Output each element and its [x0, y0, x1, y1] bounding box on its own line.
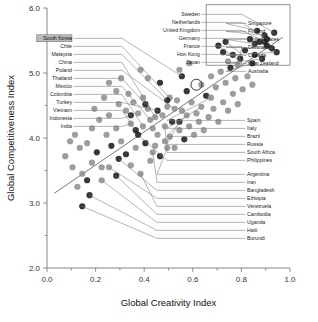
point-label: Bangladesh — [247, 187, 275, 193]
data-point — [108, 143, 114, 149]
leader-line — [74, 124, 131, 127]
data-point — [96, 117, 102, 123]
point-label: Singapore — [248, 20, 272, 26]
leader-line — [153, 152, 246, 182]
data-point — [137, 67, 143, 73]
data-point — [103, 132, 109, 138]
data-point — [208, 73, 214, 79]
data-point — [118, 138, 124, 144]
point-label: Finland — [248, 28, 265, 34]
data-point — [147, 158, 153, 164]
data-point — [74, 184, 80, 190]
data-point — [174, 97, 180, 103]
data-point — [67, 138, 73, 144]
data-point — [140, 95, 146, 101]
data-point — [91, 106, 97, 112]
point-label: Australia — [248, 68, 268, 74]
data-point — [106, 112, 112, 118]
point-label: Sweden — [181, 11, 200, 17]
point-label: Venezuela — [247, 203, 271, 209]
data-point-labeled — [86, 192, 92, 198]
x-tick-label: 0.0 — [41, 275, 53, 284]
data-point — [218, 69, 224, 75]
data-point — [77, 145, 83, 151]
point-label: Malaysia — [52, 51, 73, 57]
y-tick-label: 5.0 — [29, 69, 41, 78]
x-tick-label: 0.8 — [236, 275, 248, 284]
point-label: Vietnam — [53, 107, 72, 113]
data-point — [171, 145, 177, 151]
data-point — [94, 149, 100, 155]
data-point — [101, 95, 107, 101]
point-label: Philippines — [247, 157, 272, 163]
data-point — [128, 162, 134, 168]
leader-line — [116, 176, 245, 215]
data-point-labeled — [150, 149, 156, 155]
point-label: Argentina — [247, 171, 269, 177]
leader-line — [109, 167, 246, 198]
point-label: New Zealand — [248, 60, 279, 66]
data-point — [123, 151, 129, 157]
y-tick-label: 3.0 — [29, 199, 41, 208]
leader-line — [74, 115, 131, 118]
data-point — [84, 177, 90, 183]
data-point — [232, 75, 238, 81]
data-point — [191, 132, 197, 138]
x-tick-label: 1.0 — [284, 275, 296, 284]
y-tick-label: 6.0 — [29, 4, 41, 13]
data-point — [181, 136, 187, 142]
data-point — [72, 132, 78, 138]
point-label: Mexico — [56, 83, 73, 89]
leader-line — [74, 46, 170, 97]
data-point-labeled — [116, 156, 122, 162]
scatter-chart: South KoreaChileMalaysiaChinaPolandThail… — [0, 0, 318, 322]
data-point — [106, 80, 112, 86]
data-point — [89, 160, 95, 166]
data-point — [167, 134, 173, 140]
point-label: Canada — [248, 52, 266, 58]
leader-line — [157, 148, 246, 175]
y-axis-title: Global Competitiveness Index — [5, 75, 16, 201]
data-point — [223, 80, 229, 86]
data-point — [133, 145, 139, 151]
point-label: Denmark — [248, 44, 269, 50]
point-label: Brazil — [247, 133, 260, 139]
point-label: China — [58, 59, 72, 65]
data-point — [240, 86, 246, 92]
x-tick-label: 0.6 — [187, 275, 199, 284]
data-point — [84, 140, 90, 146]
y-tick-label: 2.0 — [29, 264, 41, 273]
x-tick-label: 0.2 — [90, 275, 102, 284]
data-point — [184, 88, 190, 94]
data-point — [235, 101, 241, 107]
data-point — [249, 82, 255, 88]
point-label: Japan — [186, 59, 200, 65]
data-point — [62, 153, 68, 159]
data-point — [201, 127, 207, 133]
data-point — [162, 138, 168, 144]
data-point — [176, 67, 182, 73]
data-point — [210, 106, 216, 112]
point-label: Hon Kong — [177, 51, 200, 57]
data-point — [154, 132, 160, 138]
point-label: Burundi — [247, 235, 265, 241]
data-point — [69, 164, 75, 170]
data-point — [116, 101, 122, 107]
point-label: United States — [248, 36, 280, 42]
data-point — [205, 114, 211, 120]
data-point — [79, 171, 85, 177]
data-point — [225, 108, 231, 114]
data-point — [196, 119, 202, 125]
point-label: Ethiopia — [247, 195, 266, 201]
chart-root: South KoreaChileMalaysiaChinaPolandThail… — [0, 0, 318, 322]
leader-line — [90, 195, 246, 230]
data-point — [220, 99, 226, 105]
point-label: Thailand — [52, 75, 72, 81]
y-tick-label: 4.0 — [29, 134, 41, 143]
data-point — [99, 164, 105, 170]
point-label: Spain — [247, 117, 260, 123]
leader-line — [102, 180, 246, 222]
point-label: Netherlands — [172, 19, 200, 25]
data-point — [113, 125, 119, 131]
point-label: Indonesia — [50, 115, 73, 121]
